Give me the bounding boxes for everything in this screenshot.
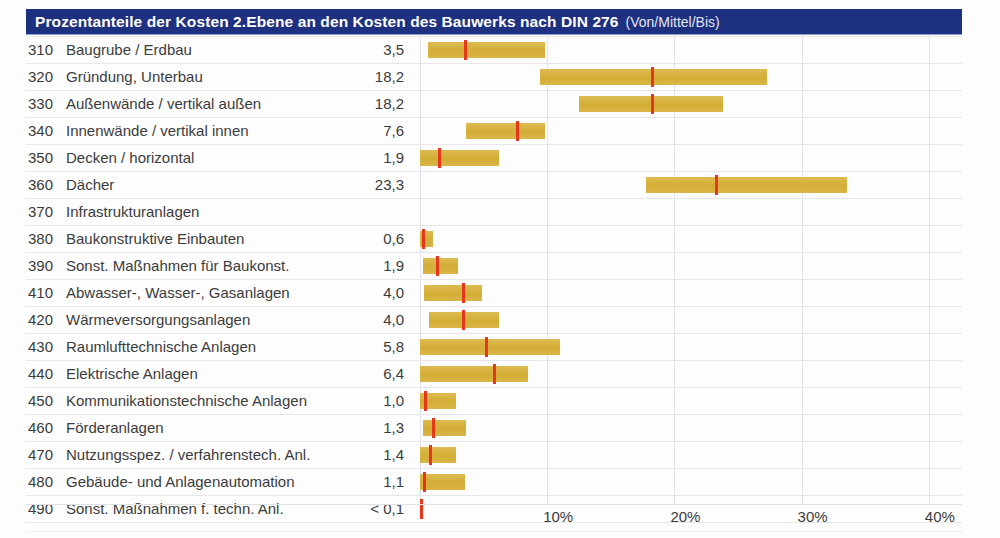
row-code: 310 [28,37,62,63]
range-bar [423,420,466,436]
chart-row: 440Elektrische Anlagen6,4 [26,361,962,388]
row-plot [420,91,962,117]
chart-row: 350Decken / horizontal1,9 [26,145,962,172]
chart-row: 450Kommunikationstechnische Anlagen1,0 [26,388,962,415]
mean-marker [493,364,496,384]
row-code: 440 [28,361,62,387]
row-value: 18,2 [288,91,404,117]
row-label: Wärmeversorgungsanlagen [66,307,250,333]
row-label: Kommunikationstechnische Anlagen [66,388,307,414]
chart-row: 380Baukonstruktive Einbauten0,6 [26,226,962,253]
row-plot [420,118,962,144]
row-code: 380 [28,226,62,252]
row-plot [420,442,962,468]
row-plot [420,226,962,252]
row-label: Elektrische Anlagen [66,361,198,387]
mean-marker [438,148,441,168]
row-code: 410 [28,280,62,306]
row-label: Sonst. Maßnahmen für Baukonst. [66,253,289,279]
chart-rows: 310Baugrube / Erdbau3,5320Gründung, Unte… [26,36,962,523]
row-plot [420,307,962,333]
row-label: Raumlufttechnische Anlagen [66,334,256,360]
x-tick-label: 40% [925,508,955,525]
row-value: 1,9 [288,145,404,171]
chart-row: 390Sonst. Maßnahmen für Baukonst.1,9 [26,253,962,280]
mean-marker [462,283,465,303]
range-bar [466,123,545,139]
row-value: 0,6 [288,226,404,252]
x-tick-label: 10% [543,508,573,525]
row-label: Baugrube / Erdbau [66,37,192,63]
mean-marker [462,310,465,330]
range-bar [420,366,528,382]
row-code: 390 [28,253,62,279]
range-bar [420,474,465,490]
row-plot [420,469,962,495]
row-plot [420,361,962,387]
row-label: Gründung, Unterbau [66,64,203,90]
range-bar [420,150,499,166]
row-plot [420,253,962,279]
row-plot [420,280,962,306]
row-value [288,199,404,225]
mean-marker [651,67,654,87]
row-code: 450 [28,388,62,414]
mean-marker [436,256,439,276]
mean-marker [429,445,432,465]
mean-marker [423,472,426,492]
chart-row: 370Infrastrukturanlagen [26,199,962,226]
chart-row: 360Dächer23,3 [26,172,962,199]
mean-marker [715,175,718,195]
row-label: Baukonstruktive Einbauten [66,226,244,252]
mean-marker [485,337,488,357]
row-label: Infrastrukturanlagen [66,199,199,225]
row-plot [420,199,962,225]
row-value: 4,0 [288,280,404,306]
row-label: Decken / horizontal [66,145,194,171]
row-value: 4,0 [288,307,404,333]
x-tick-label: 20% [670,508,700,525]
row-code: 340 [28,118,62,144]
row-plot [420,415,962,441]
row-code: 480 [28,469,62,495]
row-value: 1,9 [288,253,404,279]
row-plot [420,145,962,171]
range-bar [646,177,847,193]
row-label: Außenwände / vertikal außen [66,91,261,117]
row-code: 460 [28,415,62,441]
row-code: 430 [28,334,62,360]
chart-row: 310Baugrube / Erdbau3,5 [26,36,962,64]
row-code: 470 [28,442,62,468]
chart-row: 470Nutzungsspez. / verfahrenstech. Anl.1… [26,442,962,469]
range-bar [424,285,483,301]
row-label: Innenwände / vertikal innen [66,118,249,144]
range-bar [420,447,456,463]
row-code: 360 [28,172,62,198]
axis-baseline [26,531,962,532]
chart-row: 480Gebäude- und Anlagenautomation1,1 [26,469,962,496]
row-value: 3,5 [288,37,404,63]
mean-marker [424,391,427,411]
mean-marker [516,121,519,141]
chart-row: 460Förderanlagen1,3 [26,415,962,442]
row-value: 18,2 [288,64,404,90]
chart-subtitle: (Von/Mittel/Bis) [619,14,720,30]
chart-row: 410Abwasser-, Wasser-, Gasanlagen4,0 [26,280,962,307]
chart-row: 340Innenwände / vertikal innen7,6 [26,118,962,145]
row-code: 320 [28,64,62,90]
range-bar [428,42,545,58]
row-plot [420,172,962,198]
row-value: 1,4 [288,442,404,468]
row-value: 23,3 [288,172,404,198]
row-code: 370 [28,199,62,225]
row-plot [420,388,962,414]
row-code: 330 [28,91,62,117]
row-plot [420,64,962,90]
row-plot [420,334,962,360]
range-bar [423,258,459,274]
row-code: 350 [28,145,62,171]
row-label: Gebäude- und Anlagenautomation [66,469,295,495]
chart-row: 320Gründung, Unterbau18,2 [26,64,962,91]
row-value: 1,1 [288,469,404,495]
mean-marker [464,40,467,60]
